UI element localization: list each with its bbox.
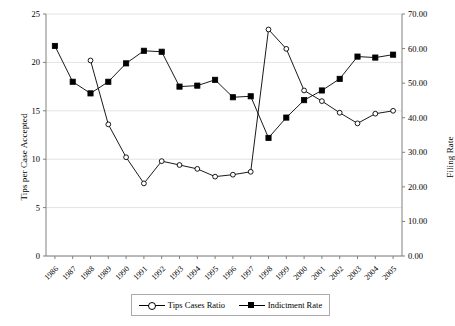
data-point <box>70 79 75 84</box>
data-point <box>266 135 271 140</box>
data-point <box>373 111 378 116</box>
data-point <box>355 54 360 59</box>
data-point <box>231 172 236 177</box>
series-line <box>126 157 144 183</box>
data-point <box>320 99 325 104</box>
legend: Tips Cases Ratio Indictment Rate <box>131 294 330 316</box>
series-line <box>269 29 287 48</box>
series-line <box>340 113 358 124</box>
data-point <box>248 169 253 174</box>
data-point <box>52 43 57 48</box>
series-line <box>269 118 287 138</box>
data-point <box>88 91 93 96</box>
legend-item-tips-cases-ratio: Tips Cases Ratio <box>139 300 225 310</box>
legend-item-indictment-rate: Indictment Rate <box>239 300 323 310</box>
data-point <box>319 88 324 93</box>
data-point <box>284 115 289 120</box>
data-point <box>106 122 111 127</box>
data-point <box>106 79 111 84</box>
data-point <box>391 108 396 113</box>
series-line <box>286 49 304 91</box>
data-point <box>159 159 164 164</box>
series-line <box>55 46 73 82</box>
data-point <box>266 27 271 32</box>
data-point <box>213 174 218 179</box>
data-point <box>230 95 235 100</box>
data-point <box>373 55 378 60</box>
series-line <box>144 161 162 183</box>
data-point <box>213 77 218 82</box>
data-point <box>302 88 307 93</box>
data-point <box>355 121 360 126</box>
legend-label-tips-cases-ratio: Tips Cases Ratio <box>168 300 225 310</box>
legend-label-indictment-rate: Indictment Rate <box>268 300 323 310</box>
data-point <box>124 155 129 160</box>
series-line <box>108 124 126 157</box>
data-point <box>88 58 93 63</box>
data-point <box>177 84 182 89</box>
data-point <box>195 83 200 88</box>
data-point <box>284 46 289 51</box>
series-line <box>358 114 376 124</box>
data-point <box>337 110 342 115</box>
data-point <box>248 94 253 99</box>
data-point <box>302 98 307 103</box>
data-point <box>337 76 342 81</box>
legend-swatch-open-circle <box>139 305 165 306</box>
series-line <box>251 29 269 171</box>
legend-swatch-filled-square <box>239 305 265 306</box>
data-point <box>141 48 146 53</box>
data-point <box>124 61 129 66</box>
data-point <box>391 52 396 57</box>
data-point <box>142 181 147 186</box>
data-point <box>159 49 164 54</box>
data-point <box>195 166 200 171</box>
series-line <box>162 52 180 87</box>
series-line <box>197 169 215 177</box>
data-point <box>177 163 182 168</box>
series-line <box>340 57 358 79</box>
